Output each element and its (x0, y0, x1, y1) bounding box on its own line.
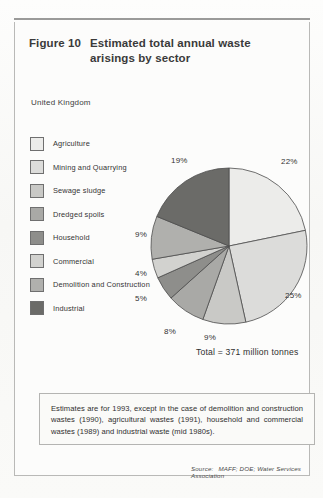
pie-chart: 22% 25% 9% 8% 5% 4% 9% 19% (133, 146, 323, 346)
source-line: Source:MAFF; DOE; Water Services Associa… (191, 465, 309, 479)
pie-label-household: 5% (135, 294, 147, 303)
legend-item-label: Mining and Quarrying (53, 163, 127, 172)
figure-frame: Figure 10 Estimated total annual waste a… (14, 22, 310, 476)
pie-label-sewage: 9% (204, 333, 216, 342)
total-label: Total = 371 million tonnes (196, 347, 298, 357)
pie-label-dredged: 8% (164, 327, 176, 336)
pie-chart-svg (133, 146, 323, 346)
legend-swatch (30, 160, 44, 174)
pie-label-industrial: 19% (171, 156, 188, 165)
legend-item-label: Industrial (53, 304, 85, 313)
legend-swatch (30, 184, 44, 198)
legend-item-label: Commercial (53, 257, 94, 266)
pie-label-demolition: 9% (135, 230, 147, 239)
figure-title: Estimated total annual waste arisings by… (90, 36, 297, 66)
legend-swatch (30, 207, 44, 221)
figure-number: Figure 10 (29, 36, 81, 51)
legend-item-label: Household (53, 233, 90, 242)
pie-label-commercial: 4% (135, 269, 147, 278)
source-label: Source: (191, 465, 213, 472)
footnote-box: Estimates are for 1993, except in the ca… (39, 393, 315, 445)
legend-swatch (30, 231, 44, 245)
legend-swatch (30, 137, 44, 151)
legend-swatch (30, 254, 44, 268)
legend-item-label: Agriculture (53, 139, 90, 148)
figure-heading: Figure 10 Estimated total annual waste a… (29, 36, 297, 66)
pie-label-mining: 25% (285, 291, 302, 300)
header-rule (14, 18, 310, 20)
legend-item-label: Sewage sludge (53, 186, 106, 195)
region-label: United Kingdom (31, 98, 91, 107)
legend-swatch (30, 278, 44, 292)
legend-swatch (30, 301, 44, 315)
legend-item-label: Dredged spoils (53, 210, 104, 219)
pie-label-agriculture: 22% (281, 157, 298, 166)
footnote-text: Estimates are for 1993, except in the ca… (51, 403, 303, 437)
